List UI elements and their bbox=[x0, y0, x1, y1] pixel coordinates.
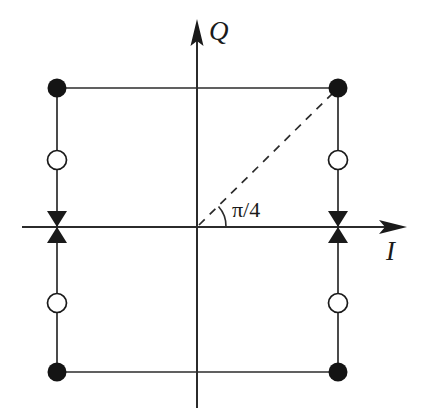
constellation-figure: Q I π/4 bbox=[0, 0, 425, 417]
filled-circle-marker-bottom-right bbox=[329, 363, 348, 382]
open-circle-marker-upper-right bbox=[329, 151, 348, 170]
i-axis-label: I bbox=[386, 238, 395, 265]
angle-arc bbox=[219, 207, 227, 228]
bowtie-down-arrowhead-left-icon bbox=[47, 211, 67, 227]
open-circle-marker-upper-left bbox=[48, 151, 67, 170]
angle-label: π/4 bbox=[232, 199, 260, 221]
filled-circle-marker-bottom-left bbox=[48, 363, 67, 382]
q-axis-label: Q bbox=[209, 18, 229, 45]
pi-over-4-dashed-line bbox=[199, 90, 336, 225]
bowtie-up-arrowhead-left-icon bbox=[47, 227, 67, 243]
bowtie-down-arrowhead-right-icon bbox=[328, 211, 348, 227]
open-circle-marker-lower-left bbox=[48, 294, 67, 313]
constellation-canvas bbox=[0, 0, 425, 417]
filled-circle-marker-top-left bbox=[48, 79, 67, 98]
open-circle-marker-lower-right bbox=[329, 294, 348, 313]
filled-circle-marker-top-right bbox=[329, 79, 348, 98]
bowtie-up-arrowhead-right-icon bbox=[328, 227, 348, 243]
